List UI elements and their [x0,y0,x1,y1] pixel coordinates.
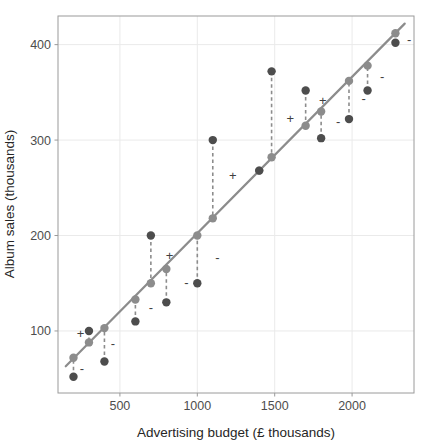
fitted-point [162,265,170,273]
observed-point [131,317,139,325]
observed-point [162,298,170,306]
residual-sign: - [380,69,384,84]
fitted-point [209,214,217,222]
y-axis-ticks: 100200300400 [30,38,58,338]
observed-point [255,166,263,174]
x-tick-label: 500 [109,399,130,413]
residual-sign: - [149,300,153,315]
observed-point [317,134,325,142]
residual-sign: - [111,336,115,351]
observed-point [301,86,309,94]
fitted-point [147,279,155,287]
fitted-point [391,29,399,37]
fitted-point [131,295,139,303]
x-tick-label: 1000 [183,399,211,413]
x-tick-label: 1500 [261,399,289,413]
residual-sign: + [77,326,85,341]
residual-sign: - [215,250,219,265]
residual-sign: + [319,93,327,108]
residual-sign: - [184,275,188,290]
residual-sign: - [336,114,340,129]
fitted-point [317,107,325,115]
residual-sign: + [286,111,294,126]
fitted-point [85,338,93,346]
residual-sign: - [407,32,411,47]
observed-point [345,115,353,123]
observed-point [69,373,77,381]
y-axis-title: Album sales (thousands) [2,130,17,279]
observed-point [193,279,201,287]
fitted-point [301,122,309,130]
fitted-point [345,77,353,85]
fitted-point [100,324,108,332]
residual-sign: + [229,168,237,183]
chart-root: -+--+--+++---- 500100015002000 100200300… [0,0,432,445]
fitted-point [193,231,201,239]
y-tick-label: 100 [30,324,51,338]
x-axis-title: Advertising budget (£ thousands) [137,425,335,440]
observed-point [391,39,399,47]
observed-point [209,136,217,144]
residual-sign: - [80,361,84,376]
fitted-point [69,353,77,361]
residual-scatter-plot: -+--+--+++---- 500100015002000 100200300… [0,0,432,445]
y-tick-label: 200 [30,229,51,243]
y-tick-label: 300 [30,134,51,148]
fitted-point [363,61,371,69]
observed-point [267,67,275,75]
x-tick-label: 2000 [338,399,366,413]
x-axis-ticks: 500100015002000 [109,393,366,413]
observed-point [100,357,108,365]
fitted-point [267,153,275,161]
observed-point [147,231,155,239]
observed-point [85,327,93,335]
y-tick-label: 400 [30,38,51,52]
residual-sign: - [362,91,366,106]
residual-sign: + [166,248,174,263]
